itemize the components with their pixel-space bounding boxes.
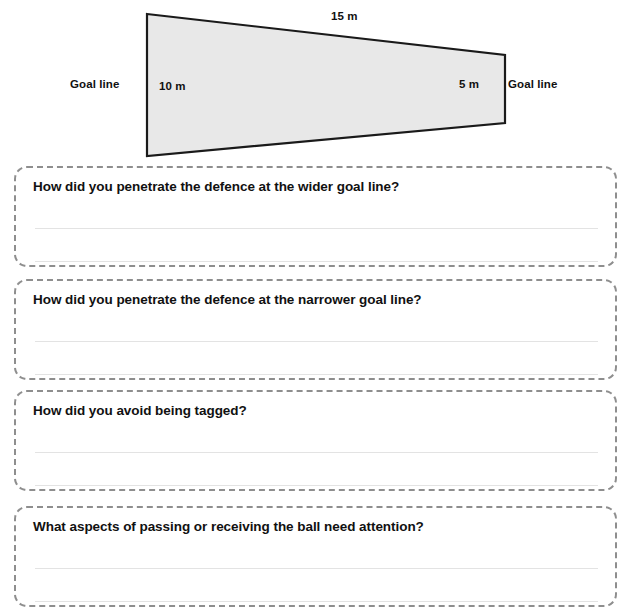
tapered-pitch-diagram: Goal line 10 m 15 m 5 m Goal line (0, 0, 629, 166)
pitch-polygon (147, 14, 505, 156)
question-text-4: What aspects of passing or receiving the… (33, 519, 424, 534)
question-box-4[interactable]: What aspects of passing or receiving the… (14, 506, 617, 607)
answer-line-1-2[interactable] (35, 261, 598, 262)
answer-line-3-2[interactable] (35, 485, 598, 486)
answer-line-4-1[interactable] (35, 568, 598, 569)
answer-line-2-2[interactable] (35, 374, 598, 375)
width-left-label: 10 m (159, 80, 186, 92)
question-text-3: How did you avoid being tagged? (33, 403, 247, 418)
question-box-1[interactable]: How did you penetrate the defence at the… (14, 166, 617, 267)
answer-line-2-1[interactable] (35, 341, 598, 342)
width-right-label: 5 m (459, 78, 479, 90)
answer-line-3-1[interactable] (35, 452, 598, 453)
goal-line-left-label: Goal line (70, 78, 119, 90)
question-text-1: How did you penetrate the defence at the… (33, 179, 399, 194)
question-box-3[interactable]: How did you avoid being tagged? (14, 390, 617, 491)
answer-line-4-2[interactable] (35, 601, 598, 602)
question-text-2: How did you penetrate the defence at the… (33, 292, 422, 307)
answer-line-1-1[interactable] (35, 228, 598, 229)
goal-line-right-label: Goal line (508, 78, 557, 90)
length-top-label: 15 m (331, 10, 358, 22)
question-box-2[interactable]: How did you penetrate the defence at the… (14, 279, 617, 380)
